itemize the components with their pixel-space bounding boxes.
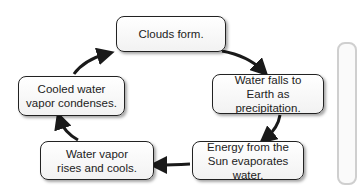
node-label: Cooled watervapor condenses. [26,82,117,110]
node-clouds-form: Clouds form. [116,16,226,52]
node-evaporation: Energy from theSun evaporates water. [192,141,304,180]
arrow-clouds-to-precip [222,51,262,70]
arrow-rises-to-condense [60,120,78,140]
arrow-condense-to-clouds [74,54,106,74]
node-label: Energy from theSun evaporates water. [193,140,303,182]
node-label: Clouds form. [138,27,203,41]
node-precipitation: Water falls toEarth as precipitation. [212,74,324,114]
node-vapor-rises: Water vaporrises and cools. [40,141,154,180]
arrow-precip-to-evap [266,115,280,138]
node-label: Water vaporrises and cools. [57,147,137,175]
node-condenses: Cooled watervapor condenses. [18,76,125,116]
side-panel-edge [337,42,357,185]
arrow-evap-to-rises [158,164,190,165]
node-label: Water falls toEarth as precipitation. [213,73,323,115]
